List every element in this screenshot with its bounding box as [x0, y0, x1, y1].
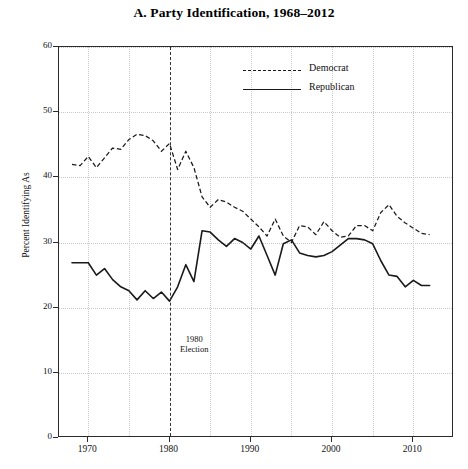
y-tick-label: 50 [28, 105, 52, 115]
x-tick-label: 2010 [392, 444, 432, 454]
election-marker-label: 1980 Election [180, 334, 208, 355]
y-tick-mark [53, 111, 58, 112]
x-tick-mark [412, 437, 413, 442]
y-tick-mark [53, 46, 58, 47]
y-tick-label: 60 [28, 40, 52, 50]
legend-swatch-democrat [243, 70, 301, 71]
y-tick-label: 30 [28, 236, 52, 246]
x-tick-label: 1990 [230, 444, 270, 454]
y-tick-mark [53, 437, 58, 438]
legend: DemocratRepublican [243, 62, 403, 100]
x-tick-mark [331, 437, 332, 442]
y-tick-label: 40 [28, 170, 52, 180]
y-tick-mark [53, 307, 58, 308]
y-tick-label: 0 [28, 431, 52, 441]
plot-area: 1980 Election [58, 46, 453, 437]
y-tick-label: 20 [28, 301, 52, 311]
y-tick-mark [53, 372, 58, 373]
legend-item-republican: Republican [243, 81, 403, 100]
chart-title: A. Party Identification, 1968–2012 [0, 5, 468, 21]
x-tick-mark [169, 437, 170, 442]
figure: A. Party Identification, 1968–2012 1980 … [0, 0, 468, 469]
series-layer [59, 47, 453, 437]
series-line-republican [72, 231, 430, 301]
x-tick-mark [250, 437, 251, 442]
series-line-democrat [72, 134, 430, 242]
x-tick-mark [87, 437, 88, 442]
legend-label: Republican [309, 81, 355, 92]
y-tick-mark [53, 242, 58, 243]
x-tick-label: 2000 [311, 444, 351, 454]
y-tick-mark [53, 176, 58, 177]
election-marker-line [170, 47, 171, 436]
x-tick-label: 1980 [149, 444, 189, 454]
x-tick-label: 1970 [67, 444, 107, 454]
y-axis-title: Percent Identifying As [21, 125, 31, 305]
legend-item-democrat: Democrat [243, 62, 403, 81]
election-label-text: Election [180, 344, 208, 355]
legend-label: Democrat [309, 62, 348, 73]
y-tick-label: 10 [28, 366, 52, 376]
election-label-year: 1980 [180, 334, 208, 345]
legend-swatch-republican [243, 89, 301, 90]
